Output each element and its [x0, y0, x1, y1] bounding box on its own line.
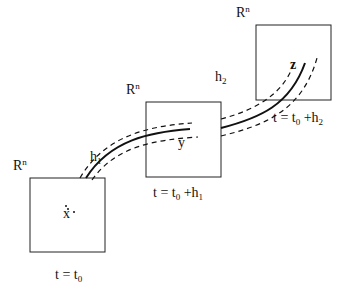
space-label-2: Rn	[126, 82, 140, 97]
time-label-1: t = t0	[55, 268, 82, 284]
diagram-canvas	[0, 0, 346, 296]
point-label-y: y	[178, 136, 185, 150]
space-label-3: Rn	[236, 5, 250, 20]
space-label-1: Rn	[13, 158, 27, 173]
trajectory-1	[86, 129, 190, 178]
time-label-2: t = t0 +h1	[153, 186, 203, 202]
step-label-h1: h1	[90, 150, 102, 166]
point-dot	[73, 211, 75, 213]
point-label-x: x	[63, 207, 70, 221]
time-label-3: t = t0 +h2	[273, 111, 323, 127]
point-label-z: z	[290, 58, 296, 72]
step-label-h2: h2	[215, 70, 227, 86]
